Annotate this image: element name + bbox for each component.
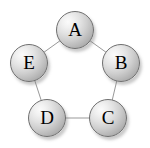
graph-node-label-c: C xyxy=(102,108,115,127)
graph-node-label-a: A xyxy=(68,20,82,39)
node-layer: ABCDE xyxy=(0,0,150,148)
graph-node-b[interactable]: B xyxy=(102,44,140,82)
graph-node-label-e: E xyxy=(23,53,35,72)
graph-node-c[interactable]: C xyxy=(89,99,127,137)
graph-node-d[interactable]: D xyxy=(28,99,66,137)
graph-figure: ABCDE xyxy=(0,0,150,148)
graph-node-label-b: B xyxy=(115,53,128,72)
graph-node-e[interactable]: E xyxy=(10,44,48,82)
graph-node-label-d: D xyxy=(40,108,54,127)
graph-node-a[interactable]: A xyxy=(56,11,94,49)
